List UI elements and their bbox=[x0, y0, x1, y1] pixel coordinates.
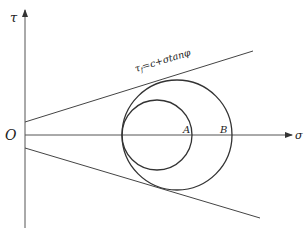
origin-label: O bbox=[5, 127, 17, 143]
point-b-label: B bbox=[219, 124, 227, 135]
mohr-coulomb-diagram: τ σ O A B τf=c+σtanφ bbox=[0, 0, 306, 228]
svg-text:τf=c+σtanφ: τf=c+σtanφ bbox=[133, 46, 192, 75]
sigma-axis-label: σ bbox=[295, 129, 303, 142]
lower-failure-envelope bbox=[25, 148, 260, 218]
point-a-label: A bbox=[182, 124, 190, 135]
envelope-equation-label: τf=c+σtanφ bbox=[133, 46, 192, 75]
upper-failure-envelope bbox=[25, 51, 253, 122]
tau-axis-label: τ bbox=[10, 10, 18, 25]
equation-rest: =c+σtanφ bbox=[141, 46, 192, 71]
